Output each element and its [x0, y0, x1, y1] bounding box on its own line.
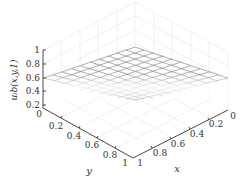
- svg-text:1: 1: [122, 158, 128, 168]
- svg-text:0.2: 0.2: [49, 121, 63, 131]
- z-axis-label: uₗb(x,y,1): [9, 59, 19, 101]
- svg-text:0.6: 0.6: [171, 139, 186, 149]
- x-tick-labels: 0 0.2 0.4 0.6 0.8 1: [137, 111, 236, 168]
- svg-text:0.8: 0.8: [153, 148, 168, 158]
- svg-text:1: 1: [34, 45, 40, 55]
- svg-text:0.8: 0.8: [26, 59, 41, 69]
- svg-text:0.6: 0.6: [26, 73, 41, 83]
- svg-text:0.8: 0.8: [103, 150, 118, 160]
- svg-text:0.2: 0.2: [209, 119, 223, 129]
- svg-text:0.4: 0.4: [190, 129, 205, 139]
- svg-text:1: 1: [137, 158, 143, 168]
- axes: [43, 50, 228, 158]
- y-axis-line: [43, 108, 133, 158]
- svg-text:0.4: 0.4: [67, 131, 82, 141]
- surface-shading: [40, 74, 232, 102]
- surface-plot: 1 0.8 0.6 0.4 0.2 0 0.2 0.4 0.6 0.8 1 0 …: [0, 0, 247, 179]
- y-tick-labels: 0 0.2 0.4 0.6 0.8 1: [36, 109, 128, 168]
- svg-text:0.6: 0.6: [85, 140, 100, 150]
- x-axis-label: x: [174, 163, 180, 174]
- svg-text:0: 0: [36, 109, 42, 119]
- x-axis-line: [133, 110, 228, 158]
- svg-text:0.4: 0.4: [26, 86, 41, 96]
- svg-text:0: 0: [230, 111, 236, 121]
- z-tick-labels: 1 0.8 0.6 0.4 0.2: [26, 45, 41, 110]
- y-axis-label: y: [85, 165, 92, 176]
